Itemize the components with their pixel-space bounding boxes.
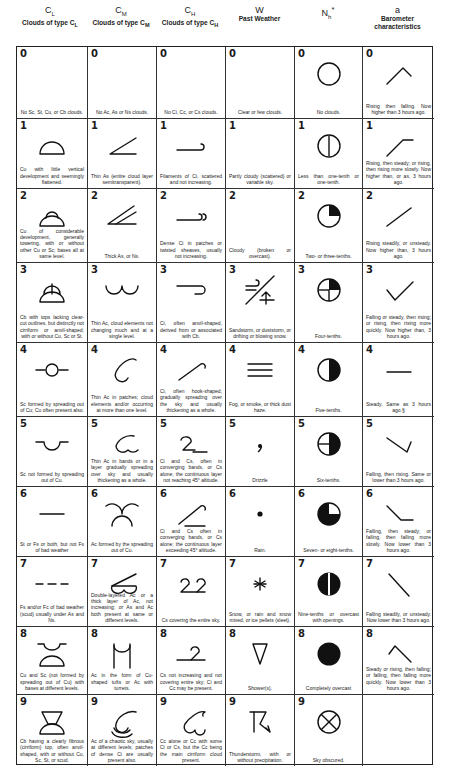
none-icon bbox=[226, 131, 294, 161]
code-number: 3 bbox=[229, 264, 236, 275]
cell-description: Thunderstorm, with or without precipitat… bbox=[229, 751, 291, 763]
none-icon bbox=[17, 59, 87, 89]
code-number: 3 bbox=[160, 264, 167, 275]
baro-4-icon bbox=[363, 355, 434, 385]
table-cell: 2Dense Ci in patches or twisted sheaves,… bbox=[157, 189, 226, 263]
code-number: 8 bbox=[160, 628, 167, 639]
code-number: 1 bbox=[20, 120, 27, 131]
table-cell: 1Filaments of Ci, scattered and not incr… bbox=[157, 119, 226, 189]
circle-1-icon bbox=[295, 131, 362, 161]
cell-description: Thin Ac in bands or in a layer gradually… bbox=[91, 458, 153, 483]
code-number: 7 bbox=[366, 558, 373, 569]
cell-description: Sc not formed by spreading out of Cu. bbox=[20, 471, 84, 483]
cell-description: Shower(s). bbox=[229, 685, 291, 691]
cm-8-icon bbox=[88, 639, 156, 669]
cell-description: No Ci, Cc, or Cs clouds. bbox=[160, 109, 222, 115]
baro-3-icon bbox=[363, 275, 434, 305]
cl-3-icon bbox=[17, 275, 87, 305]
baro-5-icon bbox=[363, 429, 434, 459]
table-cell: 8Steady or rising, then falling; or fall… bbox=[363, 627, 434, 695]
header-ch: CH Clouds of type CH bbox=[154, 6, 226, 29]
circle-3-icon bbox=[295, 275, 362, 305]
table-cell: 0Clear or few clouds. bbox=[226, 47, 295, 119]
code-number: 4 bbox=[366, 344, 373, 355]
code-number: 6 bbox=[160, 488, 167, 499]
cell-description: Clear or few clouds. bbox=[229, 109, 291, 115]
table-cell: 2Cloudy (broken or overcast). bbox=[226, 189, 295, 263]
circle-7-icon bbox=[295, 569, 362, 599]
cl-4-icon bbox=[17, 355, 87, 385]
code-number: 0 bbox=[229, 48, 236, 59]
table-cell: 5Thin Ac in bands or in a layer graduall… bbox=[88, 417, 157, 487]
code-number: 4 bbox=[160, 344, 167, 355]
code-number: 8 bbox=[229, 628, 236, 639]
circle-5-icon bbox=[295, 429, 362, 459]
table-cell: 4Sc formed by spreading out of Cu; Cu of… bbox=[17, 343, 88, 417]
baro-6-icon bbox=[363, 499, 434, 529]
none-icon bbox=[157, 59, 225, 89]
header-w: W Past Weather bbox=[225, 6, 294, 23]
code-number: 1 bbox=[91, 120, 98, 131]
cell-description: Ac of a chaotic sky, usually at differen… bbox=[91, 738, 153, 763]
cell-description: Ci, often hook-shaped, gradually spreadi… bbox=[160, 388, 222, 413]
code-number: 0 bbox=[160, 48, 167, 59]
ch-8-icon bbox=[157, 639, 225, 669]
cell-description: Sc formed by spreading out of Cu; Cu oft… bbox=[20, 401, 84, 413]
circle-empty-icon bbox=[295, 59, 362, 89]
table-cell: 5Falling, then rising. Same or lower tha… bbox=[363, 417, 434, 487]
w-6-icon bbox=[226, 499, 294, 529]
table-cell: 7Fs and/or Fc of bad weather (scud) usua… bbox=[17, 557, 88, 627]
cell-description: Partly cloudy (scattered) or variable sk… bbox=[229, 173, 291, 185]
cell-description: Falling steadily, or unsteady. Now lower… bbox=[366, 611, 431, 623]
table-cell: 1Thin As (entire cloud layer semitranspa… bbox=[88, 119, 157, 189]
code-number: 8 bbox=[20, 628, 27, 639]
header-cm: CM Clouds of type CM bbox=[84, 6, 158, 29]
code-number: 6 bbox=[20, 488, 27, 499]
code-number: 6 bbox=[366, 488, 373, 499]
code-number: 7 bbox=[229, 558, 236, 569]
cell-description: Drizzle bbox=[229, 477, 291, 483]
code-number: 2 bbox=[298, 190, 305, 201]
table-cell: 7Cs covering the entire sky. bbox=[157, 557, 226, 627]
table-cell: 8Cu and Sc (not formed by spreading out … bbox=[17, 627, 88, 695]
code-number: 2 bbox=[91, 190, 98, 201]
code-number: 4 bbox=[91, 344, 98, 355]
ch-7-icon bbox=[157, 569, 225, 599]
code-number: 0 bbox=[298, 48, 305, 59]
table-cell: 0Rising then falling. Now higher than 3 … bbox=[363, 47, 434, 119]
code-number: 1 bbox=[298, 120, 305, 131]
table-cell: 4Five-tenths. bbox=[295, 343, 363, 417]
code-number: 5 bbox=[366, 418, 373, 429]
cell-description: Falling, then steady; or falling, then f… bbox=[366, 528, 431, 553]
table-cell: 8Completely overcast bbox=[295, 627, 363, 695]
ch-4-icon bbox=[157, 355, 225, 385]
cell-description: Cs covering the entire sky. bbox=[160, 617, 222, 623]
table-cell: 9Ac of a chaotic sky, usually at differe… bbox=[88, 695, 157, 766]
cm-9-icon bbox=[88, 707, 156, 737]
table-cell: 8Shower(s). bbox=[226, 627, 295, 695]
code-number: 9 bbox=[20, 696, 27, 707]
cell-description: Ac in the form of Cu-shaped tufts or Ac … bbox=[91, 672, 153, 691]
cell-description: Fs and/or Fc of bad weather (scud) usual… bbox=[20, 604, 84, 623]
code-number: 6 bbox=[298, 488, 305, 499]
table-cell: 4Ci, often hook-shaped, gradually spread… bbox=[157, 343, 226, 417]
table-cell: 5Drizzle bbox=[226, 417, 295, 487]
code-number: 2 bbox=[160, 190, 167, 201]
cell-description: Cb with tops lacking clear-cut outlines,… bbox=[20, 314, 84, 339]
table-cell: 5Six-tenths. bbox=[295, 417, 363, 487]
table-cell: 2Thick As, or Ns. bbox=[88, 189, 157, 263]
cm-3-icon bbox=[88, 275, 156, 305]
w-5-icon bbox=[226, 429, 294, 459]
table-cell: 2Two- or three-tenths. bbox=[295, 189, 363, 263]
table-cell bbox=[363, 695, 434, 766]
cl-8-icon bbox=[17, 639, 87, 669]
code-number: 5 bbox=[229, 418, 236, 429]
code-number: 4 bbox=[20, 344, 27, 355]
code-number: 8 bbox=[298, 628, 305, 639]
cell-description: Dense Ci in patches or twisted sheaves, … bbox=[160, 240, 222, 259]
code-number: 4 bbox=[298, 344, 305, 355]
none-icon bbox=[88, 59, 156, 89]
code-number: 9 bbox=[298, 696, 305, 707]
w-8-icon bbox=[226, 639, 294, 669]
table-cell: 6Seven- or eight-tenths. bbox=[295, 487, 363, 557]
